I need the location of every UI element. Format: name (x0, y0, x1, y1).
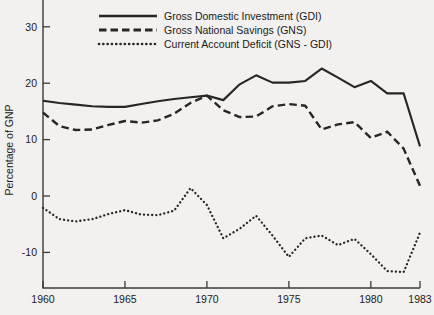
y-axis-label-text: Percentage of GNP (3, 104, 15, 195)
y-tick-label: 10 (25, 133, 37, 145)
series-line-gdi (43, 69, 420, 147)
y-axis-label: Percentage of GNP (3, 104, 15, 195)
y-tick-label: 0 (31, 190, 37, 202)
x-tick-label: 1965 (113, 293, 137, 305)
chart-legend: Gross Domestic Investment (GDI)Gross Nat… (99, 10, 332, 50)
x-tick-label: 1960 (31, 293, 55, 305)
legend-label: Gross Domestic Investment (GDI) (164, 10, 322, 22)
x-tick-label: 1970 (195, 293, 219, 305)
x-axis-ticks: 196019651970197519801983 (31, 281, 432, 305)
line-chart-canvas: 3020100-10 196019651970197519801983 Perc… (0, 0, 434, 315)
y-tick-label: -10 (22, 246, 37, 258)
y-tick-label: 20 (25, 77, 37, 89)
chart-series-group (43, 69, 420, 273)
chart-figure: 3020100-10 196019651970197519801983 Perc… (0, 0, 434, 315)
x-tick-label: 1980 (359, 293, 383, 305)
y-axis-ticks: 3020100-10 (22, 21, 50, 259)
y-tick-label: 30 (25, 21, 37, 33)
series-line-gns (43, 96, 420, 186)
x-tick-label: 1983 (408, 293, 432, 305)
legend-label: Current Account Deficit (GNS - GDI) (164, 38, 332, 50)
legend-label: Gross National Savings (GNS) (164, 24, 306, 36)
series-line-cad (43, 188, 420, 272)
x-tick-label: 1975 (277, 293, 301, 305)
